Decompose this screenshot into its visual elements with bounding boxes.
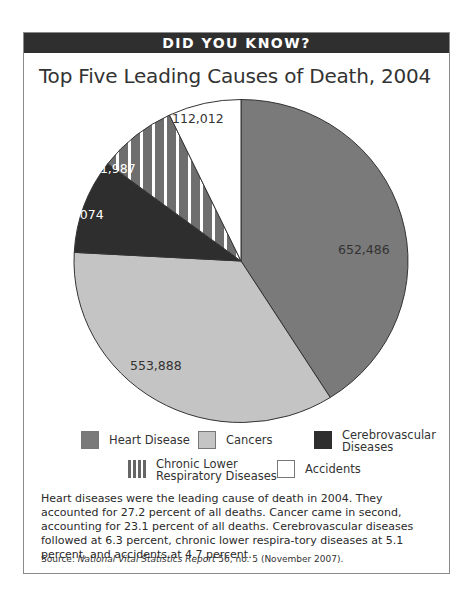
legend-label-cancers: Cancers [226,434,272,446]
slice-label-accidents: 112,012 [172,111,224,126]
legend-item-accidents: Accidents [277,460,361,478]
slice-label-cancers: 553,888 [130,358,182,373]
legend-item-cerebrovascular: Cerebrovascular Diseases [314,431,436,453]
legend-swatch-heart-disease [81,431,99,449]
legend-swatch-chronic-respiratory [128,460,146,478]
legend-swatch-cerebrovascular [314,431,332,449]
legend-swatch-accidents [277,460,295,478]
legend-swatch-cancers [198,431,216,449]
slice-label-heart-disease: 652,486 [338,242,390,257]
source-suffix: 56, no. 5 (November 2007). [215,554,343,564]
legend-label-heart-disease: Heart Disease [109,434,190,446]
legend-item-heart-disease: Heart Disease [81,431,190,449]
slice-label-cerebrovascular: 150,074 [52,207,104,222]
source-prefix: Source: [41,554,78,564]
legend-label-cerebrovascular-line2: Diseases [342,441,436,453]
legend-item-chronic-respiratory: Chronic Lower Respiratory Diseases [128,460,277,482]
caption-text: Heart diseases were the leading cause of… [41,492,436,562]
slice-label-chronic-respiratory: 121,987 [84,161,136,176]
legend-item-cancers: Cancers [198,431,272,449]
source-publication: National Vital Statistics Report [78,554,216,564]
did-you-know-panel: DID YOU KNOW? Top Five Leading Causes of… [23,32,450,574]
legend-label-chronic-line2: Respiratory Diseases [156,470,277,482]
legend-label-accidents: Accidents [305,463,361,475]
source-citation: Source: National Vital Statistics Report… [41,554,343,564]
